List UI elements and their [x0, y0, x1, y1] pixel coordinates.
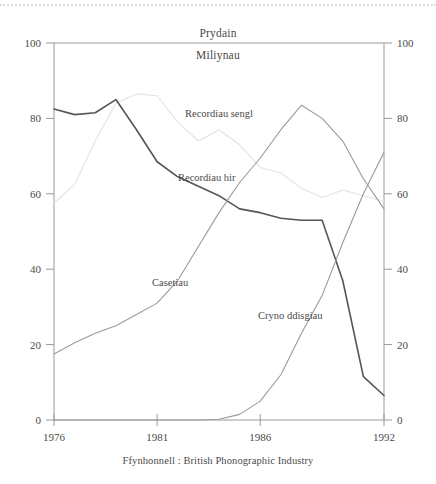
- y-tick-label-left: 60: [30, 188, 42, 200]
- series-label-recordiau-sengl: Recordiau sengl: [185, 108, 253, 119]
- x-tick-label: 1986: [249, 431, 272, 443]
- y-tick-label-right: 0: [397, 414, 403, 426]
- series-label-cryno-ddisgiau: Cryno ddisgiau: [258, 310, 323, 321]
- series-line-casetiau: [54, 105, 384, 354]
- chart-series-labels: Recordiau senglRecordiau hirCasetiauCryn…: [152, 108, 323, 321]
- series-label-recordiau-hir: Recordiau hir: [178, 172, 236, 183]
- series-label-casetiau: Casetiau: [152, 277, 189, 288]
- y-tick-label-right: 80: [397, 112, 409, 124]
- y-tick-label-left: 20: [30, 339, 42, 351]
- chart-axes: [54, 43, 384, 420]
- y-axis-right: 020406080100: [384, 37, 414, 426]
- y-axis-left: 020406080100: [25, 37, 55, 426]
- series-line-recordiau-hir: [54, 100, 384, 396]
- y-tick-label-right: 20: [397, 339, 409, 351]
- x-axis: 1976198119861992: [43, 414, 395, 443]
- y-tick-label-left: 100: [25, 37, 42, 49]
- y-tick-label-left: 0: [36, 414, 42, 426]
- y-tick-label-right: 60: [397, 188, 409, 200]
- x-tick-label: 1992: [373, 431, 395, 443]
- chart-page: Prydain Miliynau 020406080100 0204060801…: [0, 0, 436, 484]
- y-tick-label-right: 100: [397, 37, 414, 49]
- y-tick-label-right: 40: [397, 263, 409, 275]
- y-tick-label-left: 80: [30, 112, 42, 124]
- y-tick-label-left: 40: [30, 263, 42, 275]
- chart-series-group: [54, 94, 384, 420]
- x-tick-label: 1976: [43, 431, 66, 443]
- line-chart-svg: 020406080100 020406080100 19761981198619…: [0, 0, 436, 484]
- source-note: Ffynhonnell : British Phonographic Indus…: [0, 455, 436, 466]
- x-tick-label: 1981: [146, 431, 168, 443]
